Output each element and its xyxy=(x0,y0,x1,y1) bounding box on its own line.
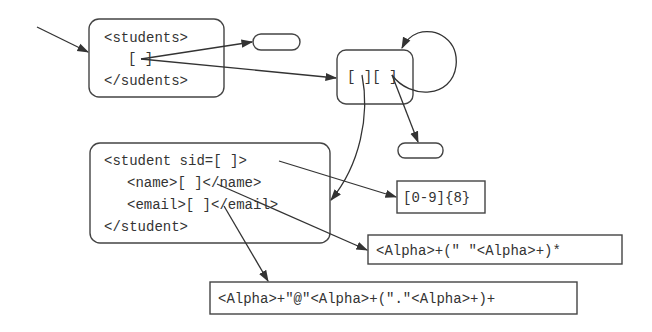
pair-node: [ ][ ] xyxy=(337,50,413,104)
students-open-tag: <students> xyxy=(104,30,188,46)
student-node: <student sid=[ ]> <name>[ ]</name> <emai… xyxy=(90,143,330,243)
pair-self-loop xyxy=(392,32,456,93)
students-node: <students> [ ] </sudents> xyxy=(89,19,224,97)
name-regex-node: <Alpha>+(" "<Alpha>+)* xyxy=(368,235,622,264)
student-email-line: <email>[ ]</email> xyxy=(127,197,278,213)
email-regex-node: <Alpha>+"@"<Alpha>+("."<Alpha>+)+ xyxy=(210,282,577,314)
sid-regex-node: [0-9]{8} xyxy=(397,181,485,213)
pair-to-student-arrow xyxy=(331,75,365,200)
pair-to-empty-arrow xyxy=(392,75,418,142)
entry-arrow xyxy=(37,27,88,52)
pair-label: [ ][ ] xyxy=(347,69,397,85)
email-regex-label: <Alpha>+"@"<Alpha>+("."<Alpha>+)+ xyxy=(218,291,495,307)
name-arrow xyxy=(217,184,367,250)
student-name-line: <name>[ ]</name> xyxy=(127,175,261,191)
student-open-tag: <student sid=[ ]> xyxy=(104,153,247,169)
empty-terminal-node xyxy=(253,34,300,50)
student-close-tag: </student> xyxy=(104,219,188,235)
schema-diagram: <students> [ ] </sudents> [ ][ ] <studen… xyxy=(0,0,652,332)
name-regex-label: <Alpha>+(" "<Alpha>+)* xyxy=(376,243,561,259)
sid-regex-label: [0-9]{8} xyxy=(403,190,470,206)
students-close-tag: </sudents> xyxy=(104,73,188,89)
empty-terminal-node-2 xyxy=(398,143,443,158)
students-slot: [ ] xyxy=(128,51,153,67)
